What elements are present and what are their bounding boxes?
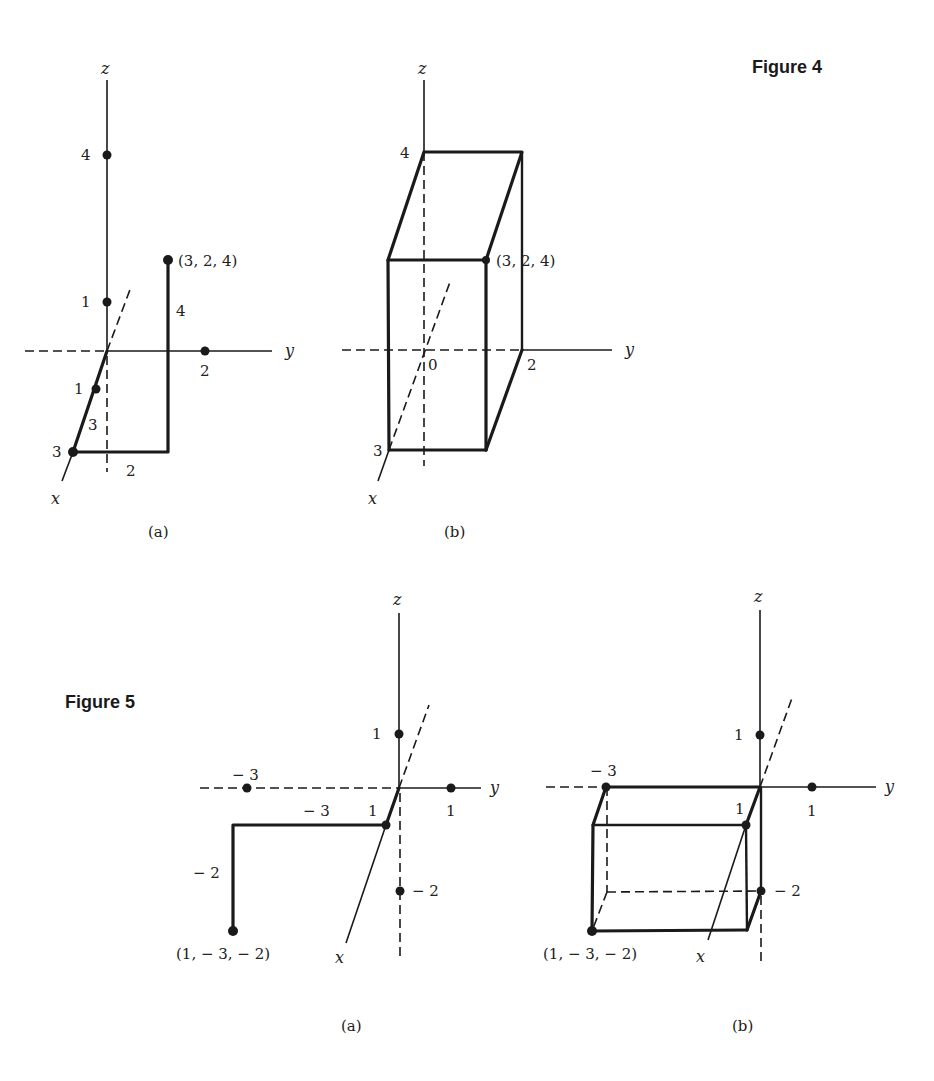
- tick-label-z4: 4: [400, 144, 410, 162]
- tick-label-x1: 1: [735, 800, 745, 818]
- point-label: (3, 2, 4): [178, 252, 237, 270]
- segment-label-z: − 2: [193, 864, 220, 882]
- tick-dot-x1: [382, 821, 391, 830]
- caption-5a: (a): [341, 1017, 362, 1035]
- point-dot: [163, 255, 173, 265]
- figure-4a: z y x 4 1 2 1 3 3 2 4 (3, 2, 4) (a): [25, 59, 295, 541]
- coordinate-path: [233, 825, 386, 931]
- tick-label-ym3: − 3: [232, 766, 259, 784]
- x-axis-hidden-dashed: [389, 282, 450, 450]
- tick-dot-zm2: [757, 887, 766, 896]
- figure-5a: z y x 1 − 2 − 3 1 1 − 3 − 2 (1, − 3, − 2…: [176, 590, 500, 1035]
- tick-dot-ym3: [243, 784, 252, 793]
- caption-4a: (a): [148, 523, 169, 541]
- tick-label-y1: 1: [446, 802, 456, 820]
- box-top-face: [388, 152, 522, 260]
- box-edge-front-right: [746, 825, 747, 930]
- tick-label-y2: 2: [200, 362, 210, 380]
- tick-label-y2: 2: [527, 356, 537, 374]
- z-axis-label: z: [753, 587, 763, 606]
- z-axis-label: z: [100, 59, 110, 78]
- tick-dot-x3: [68, 447, 78, 457]
- x-axis-negative-dashed: [107, 287, 131, 351]
- tick-label-zm2: − 2: [412, 882, 439, 900]
- segment-label-x: 3: [88, 416, 98, 434]
- tick-label-x1: 1: [74, 380, 84, 398]
- x-segment-1: [386, 788, 399, 825]
- point-label: (1, − 3, − 2): [176, 945, 270, 963]
- tick-dot-y2: [201, 347, 210, 356]
- box-edge-bottom-front: [592, 930, 747, 931]
- box-edge-top-left: [593, 787, 606, 825]
- tick-label-z1: 1: [734, 726, 744, 744]
- figure-5-title: Figure 5: [65, 692, 135, 712]
- x-axis-negative-dashed: [760, 698, 792, 787]
- tick-dot-y1: [808, 783, 817, 792]
- x-axis-label: x: [368, 489, 377, 508]
- tick-dot-zm2: [396, 887, 405, 896]
- tick-label-z4: 4: [81, 146, 91, 164]
- z-axis-label: z: [417, 59, 427, 78]
- tick-label-ym3: − 3: [590, 762, 617, 780]
- tick-label-zm2: − 2: [774, 882, 801, 900]
- box-hidden-edge-bottom-left: [592, 892, 607, 931]
- y-axis-label: y: [489, 778, 500, 797]
- figure-4b: z y x 4 3 2 0 (3, 2, 4) (b): [342, 59, 635, 541]
- tick-label-x3: 3: [52, 443, 62, 461]
- x-segment-3: [73, 351, 107, 452]
- y-axis-label: y: [884, 777, 895, 796]
- box-edge-bottom-right: [747, 891, 761, 930]
- x-axis-label: x: [696, 947, 705, 966]
- figures-canvas: z y x 4 1 2 1 3 3 2 4 (3, 2, 4) (a) z y …: [0, 0, 934, 1081]
- tick-dot-z1: [756, 731, 765, 740]
- box-edge-front-left: [592, 825, 593, 931]
- figure-4-title: Figure 4: [752, 57, 822, 77]
- tick-label-z1: 1: [372, 725, 382, 743]
- tick-label-z1: 1: [81, 293, 91, 311]
- segment-label-y: − 3: [303, 802, 330, 820]
- tick-dot-z1: [103, 298, 112, 307]
- tick-dot-x1: [92, 385, 101, 394]
- point-dot: [587, 926, 597, 936]
- x-axis-label: x: [335, 948, 344, 967]
- x-axis: [708, 825, 746, 940]
- tick-label-x3: 3: [373, 442, 383, 460]
- point-dot: [482, 256, 490, 264]
- point-label: (3, 2, 4): [496, 252, 555, 270]
- y-axis-label: y: [284, 341, 295, 360]
- y-axis-label: y: [624, 340, 635, 359]
- tick-dot-z4: [103, 151, 112, 160]
- box-edge-front-left: [388, 260, 389, 450]
- tick-dot-x1: [742, 821, 751, 830]
- x-axis-negative-dashed: [399, 705, 429, 788]
- tick-dot-z1: [395, 730, 404, 739]
- origin-label: 0: [428, 356, 438, 374]
- segment-label-z: 4: [176, 302, 186, 320]
- figure-5b: z y x 1 − 2 − 3 1 1 (1, − 3, − 2) (b): [543, 587, 895, 1035]
- z-axis-label: z: [392, 590, 402, 609]
- x-axis: [346, 825, 386, 943]
- box-edge-bottom-right: [486, 350, 522, 450]
- caption-4b: (b): [444, 523, 465, 541]
- caption-5b: (b): [732, 1017, 753, 1035]
- tick-label-y1: 1: [807, 802, 817, 820]
- tick-dot-ym3: [602, 783, 611, 792]
- tick-label-x1: 1: [368, 802, 378, 820]
- point-dot: [228, 926, 238, 936]
- segment-label-y: 2: [126, 462, 136, 480]
- box-edge-top-right: [746, 787, 760, 825]
- point-label: (1, − 3, − 2): [543, 945, 637, 963]
- x-axis-label: x: [51, 489, 60, 508]
- tick-dot-y1: [447, 784, 456, 793]
- box-hidden-edge-bottom-back: [607, 891, 761, 892]
